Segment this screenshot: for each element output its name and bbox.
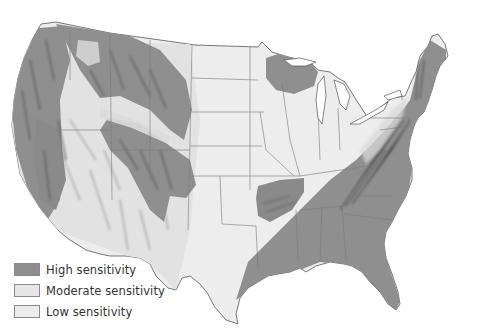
legend: High sensitivity Moderate sensitivity Lo…: [14, 259, 165, 322]
legend-swatch-high: [14, 263, 40, 276]
legend-item-high: High sensitivity: [14, 259, 165, 280]
legend-item-low: Low sensitivity: [14, 301, 165, 322]
legend-label-low: Low sensitivity: [46, 305, 132, 319]
legend-label-moderate: Moderate sensitivity: [46, 284, 165, 298]
legend-swatch-moderate: [14, 284, 40, 297]
legend-swatch-low: [14, 305, 40, 318]
legend-label-high: High sensitivity: [46, 263, 136, 277]
legend-item-moderate: Moderate sensitivity: [14, 280, 165, 301]
